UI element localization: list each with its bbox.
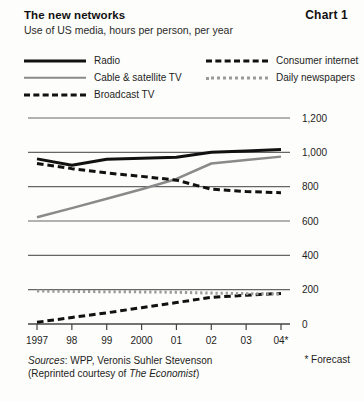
legend-swatch-consumer-internet-icon [206, 55, 268, 67]
legend-label-consumer-internet: Consumer internet [276, 55, 358, 67]
legend-label-cable-satellite-tv: Cable & satellite TV [94, 72, 182, 84]
chart-header: The new networks Use of US media, hours … [24, 8, 348, 37]
legend-item-daily-newspapers: Daily newspapers [206, 69, 358, 86]
y-axis-tick-label: 1,000 [302, 147, 327, 158]
sources-label: Sources [28, 355, 65, 366]
chart-plot-area: 02004006008001,0001,200 1997989920000102… [0, 104, 364, 344]
series-line-daily-newspapers [37, 291, 281, 294]
x-axis-tick-label: 99 [101, 335, 113, 344]
legend-swatch-broadcast-tv-icon [24, 89, 86, 101]
legend-swatch-daily-newspapers-icon [206, 72, 268, 84]
y-axis-tick-label: 200 [302, 284, 319, 295]
legend-swatch-cable-satellite-tv-icon [24, 72, 86, 84]
x-axis-tick-label: 01 [171, 335, 183, 344]
sources-text: : WPP, Veronis Suhler Stevenson [65, 355, 213, 366]
x-axis-labels-group: 19979899200001020304* [26, 335, 289, 344]
chart-number-label: Chart 1 [305, 8, 348, 22]
y-axis-tick-label: 0 [302, 319, 308, 330]
chart-subtitle: Use of US media, hours per person, per y… [24, 23, 348, 37]
x-axis-tick-label: 1997 [26, 335, 49, 344]
chart-footer: Sources: WPP, Veronis Suhler Stevenson (… [28, 354, 350, 380]
x-axis-tick-label: 02 [206, 335, 218, 344]
reprint-line: (Reprinted courtesy of The Economist) [28, 367, 350, 380]
page-title: The new networks [24, 8, 348, 22]
legend-swatch-radio-icon [24, 55, 86, 67]
chart-legend: Radio Cable & satellite TV Broadcast TV … [24, 52, 354, 104]
y-axis-labels-group: 02004006008001,0001,200 [302, 113, 327, 330]
x-axis-tick-label: 04* [273, 335, 288, 344]
y-axis-tick-label: 400 [302, 250, 319, 261]
y-axis-tick-label: 800 [302, 181, 319, 192]
y-axis-tick-label: 600 [302, 216, 319, 227]
series-line-broadcast-tv [37, 163, 281, 192]
legend-label-radio: Radio [94, 55, 120, 67]
x-axis-tick-label: 2000 [130, 335, 153, 344]
legend-column-left: Radio Cable & satellite TV Broadcast TV [24, 52, 182, 103]
x-axis-tick-label: 03 [241, 335, 253, 344]
legend-item-consumer-internet: Consumer internet [206, 52, 358, 69]
reprint-prefix: (Reprinted courtesy of [28, 368, 129, 379]
line-chart-svg: 02004006008001,0001,200 1997989920000102… [0, 104, 364, 344]
x-axis-ticks-group [37, 324, 281, 330]
chart-page: The new networks Use of US media, hours … [0, 0, 364, 401]
legend-label-daily-newspapers: Daily newspapers [276, 72, 355, 84]
legend-item-broadcast-tv: Broadcast TV [24, 86, 182, 103]
series-line-consumer-internet [37, 293, 281, 322]
reprint-suffix: ) [196, 368, 199, 379]
gridlines-group [28, 118, 290, 324]
reprint-publication: The Economist [129, 368, 196, 379]
legend-label-broadcast-tv: Broadcast TV [94, 89, 154, 101]
legend-item-radio: Radio [24, 52, 182, 69]
y-axis-tick-label: 1,200 [302, 113, 327, 124]
x-axis-tick-label: 98 [66, 335, 78, 344]
legend-item-cable-satellite-tv: Cable & satellite TV [24, 69, 182, 86]
forecast-note: * Forecast [304, 354, 350, 365]
legend-column-right: Consumer internet Daily newspapers [206, 52, 358, 86]
sources-line: Sources: WPP, Veronis Suhler Stevenson [28, 354, 350, 367]
series-group [37, 150, 281, 323]
